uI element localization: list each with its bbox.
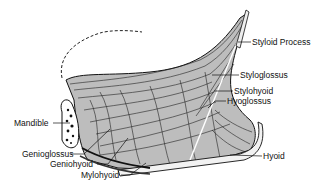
tongue-muscle-illustration (0, 0, 326, 190)
label-geniohyoid: Geniohyoid (50, 159, 93, 169)
label-stylohyoid: Stylohyoid (234, 86, 273, 96)
label-genioglossus: Genioglossus (22, 149, 74, 159)
label-hyoglossus: Hyoglossus (227, 96, 271, 106)
label-mylohyoid: Mylohyoid (81, 170, 119, 180)
label-mandible: Mandible (14, 118, 49, 128)
label-styloid-process: Styloid Process (252, 37, 311, 47)
anatomy-diagram: Styloid Process Styloglossus Stylohyoid … (0, 0, 326, 190)
label-styloglossus: Styloglossus (240, 70, 288, 80)
tongue-outline-dashed (61, 31, 142, 78)
label-hyoid: Hyoid (263, 151, 285, 161)
